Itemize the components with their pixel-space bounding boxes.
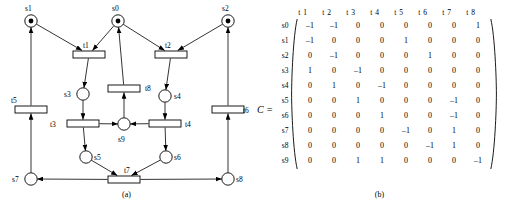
matrix-cell-s2-3: 0 xyxy=(370,51,394,60)
arc-t2-to-s4 xyxy=(166,59,171,90)
matrix-row: –1–1000001 xyxy=(298,18,490,33)
matrix-cell-s9-4: 0 xyxy=(394,156,418,165)
matrix-cell-s1-2: 0 xyxy=(346,36,370,45)
matrix-row-labels: s0s1s2s3s4s5s6s7s8s9 xyxy=(274,18,291,168)
place-s5[interactable]: s5 xyxy=(80,151,101,163)
matrix-cell-s7-4: –1 xyxy=(394,126,418,135)
matrix-rows: s0s1s2s3s4s5s6s7s8s9 –1–1000001–10001000… xyxy=(274,18,497,168)
matrix-cell-s8-2: 0 xyxy=(346,141,370,150)
matrix-cell-s7-7: 0 xyxy=(466,126,490,135)
token-dot xyxy=(29,19,34,24)
matrix-cell-s4-7: 0 xyxy=(466,81,490,90)
matrix-right-paren xyxy=(490,18,497,168)
matrix-col-header-6: t 7 xyxy=(435,8,459,17)
matrix-col-header-3: t 4 xyxy=(363,8,387,17)
place-s7[interactable]: s7 xyxy=(12,173,37,185)
place-s9[interactable]: s9 xyxy=(118,118,130,144)
matrix-cell-s6-4: 0 xyxy=(394,111,418,120)
transition-t4[interactable]: t4 xyxy=(149,120,191,129)
petri-net-diagram: s0s1s2s3s4s5s6s7s8s9t1t2t3t4t5t6t7t8 xyxy=(0,0,253,210)
transition-bar xyxy=(108,85,140,92)
arc-t8-to-s0 xyxy=(119,27,124,84)
transition-label-t6: t6 xyxy=(243,106,249,115)
matrix-row: 000100–10 xyxy=(298,108,490,123)
matrix-cell-s8-6: 1 xyxy=(442,141,466,150)
arc-s0-to-t1 xyxy=(92,26,113,51)
matrix-cell-s8-5: –1 xyxy=(418,141,442,150)
matrix-row: 00000–110 xyxy=(298,138,490,153)
matrix-cell-s0-2: 0 xyxy=(346,21,370,30)
matrix-cell-s7-6: 1 xyxy=(442,126,466,135)
matrix-cell-s5-5: 0 xyxy=(418,96,442,105)
place-s8[interactable]: s8 xyxy=(222,173,243,185)
matrix-cell-s5-6: –1 xyxy=(442,96,466,105)
matrix-wrap: C = t 1t 2t 3t 4t 5t 6t 7t 8 s0s1s2s3s4s… xyxy=(253,8,506,168)
token-dot xyxy=(116,19,121,24)
place-circle xyxy=(80,151,92,163)
matrix-col-header-7: t 8 xyxy=(459,8,483,17)
place-s0[interactable]: s0 xyxy=(112,4,124,27)
matrix-cell-s3-6: 0 xyxy=(442,66,466,75)
matrix-cell-s3-5: 0 xyxy=(418,66,442,75)
transition-label-t3: t3 xyxy=(50,120,56,129)
transition-t7[interactable]: t7 xyxy=(108,166,140,183)
matrix-row: 010–10000 xyxy=(298,78,490,93)
transition-t8[interactable]: t8 xyxy=(108,84,151,93)
matrix-grid: –1–1000001–100010000–100010010–100000010… xyxy=(298,18,490,168)
matrix-cell-s8-1: 0 xyxy=(322,141,346,150)
matrix-cell-s7-3: 0 xyxy=(370,126,394,135)
matrix-column-headers: t 1t 2t 3t 4t 5t 6t 7t 8 xyxy=(291,8,497,17)
matrix-cell-s9-1: 0 xyxy=(322,156,346,165)
place-label-s8: s8 xyxy=(236,175,243,184)
place-s6[interactable]: s6 xyxy=(160,151,181,163)
matrix-cell-s2-4: 0 xyxy=(394,51,418,60)
transition-t6[interactable]: t6 xyxy=(212,106,249,115)
matrix-cell-s6-1: 0 xyxy=(322,111,346,120)
matrix-cell-s9-2: 1 xyxy=(346,156,370,165)
matrix-cell-s9-0: 0 xyxy=(298,156,322,165)
figure-container: s0s1s2s3s4s5s6s7s8s9t1t2t3t4t5t6t7t8 (a)… xyxy=(0,0,506,210)
matrix-cell-s0-4: 0 xyxy=(394,21,418,30)
matrix-cell-s3-3: 0 xyxy=(370,66,394,75)
matrix-cell-s6-7: 0 xyxy=(466,111,490,120)
transition-t3[interactable]: t3 xyxy=(50,120,99,129)
transition-bar xyxy=(15,106,47,113)
matrix-cell-s7-2: 0 xyxy=(346,126,370,135)
matrix-col-header-0: t 1 xyxy=(291,8,315,17)
matrix-row: 10–100000 xyxy=(298,63,490,78)
arc-s0-to-t2 xyxy=(123,24,164,50)
matrix-cell-s0-7: 1 xyxy=(466,21,490,30)
matrix-cell-s8-3: 0 xyxy=(370,141,394,150)
token-dot xyxy=(226,19,231,24)
node-layer: s0s1s2s3s4s5s6s7s8s9t1t2t3t4t5t6t7t8 xyxy=(11,4,249,185)
matrix-row-header-9: s9 xyxy=(274,153,289,168)
matrix-cell-s1-7: 0 xyxy=(466,36,490,45)
matrix-cell-s5-3: 0 xyxy=(370,96,394,105)
matrix-col-header-4: t 5 xyxy=(387,8,411,17)
matrix-cell-s2-0: 0 xyxy=(298,51,322,60)
matrix-cell-s0-0: –1 xyxy=(298,21,322,30)
place-s2[interactable]: s2 xyxy=(222,4,234,27)
transition-bar xyxy=(212,106,244,113)
matrix-cell-s9-6: 0 xyxy=(442,156,466,165)
matrix-cell-s6-0: 0 xyxy=(298,111,322,120)
matrix-row-header-8: s8 xyxy=(274,138,289,153)
transition-bar xyxy=(108,176,140,183)
matrix-cell-s3-4: 0 xyxy=(394,66,418,75)
place-s3[interactable]: s3 xyxy=(64,88,89,100)
transition-t1[interactable]: t1 xyxy=(73,41,105,58)
place-circle xyxy=(77,88,89,100)
matrix-cell-s7-1: 0 xyxy=(322,126,346,135)
matrix-col-header-2: t 3 xyxy=(339,8,363,17)
matrix-col-header-1: t 2 xyxy=(315,8,339,17)
place-s4[interactable]: s4 xyxy=(159,90,181,102)
matrix-cell-s8-7: 0 xyxy=(466,141,490,150)
transition-t2[interactable]: t2 xyxy=(155,41,187,58)
transition-t5[interactable]: t5 xyxy=(11,96,47,113)
place-s1[interactable]: s1 xyxy=(25,4,37,27)
matrix-cell-s7-0: 0 xyxy=(298,126,322,135)
transition-label-t2: t2 xyxy=(165,41,171,50)
matrix-cell-s3-7: 0 xyxy=(466,66,490,75)
place-circle xyxy=(25,173,37,185)
matrix-cell-s2-1: –1 xyxy=(322,51,346,60)
